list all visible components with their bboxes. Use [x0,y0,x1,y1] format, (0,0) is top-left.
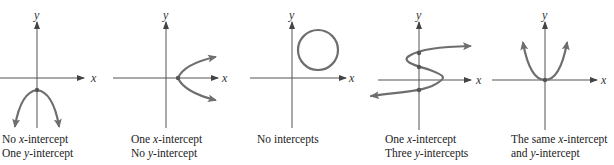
x-intercept-point [176,76,180,80]
circle-curve [298,30,338,70]
s-curve-left-arrow [372,95,380,96]
caption-line-2: Three y-intercepts [385,147,468,161]
caption-line-1: No intercepts [257,133,319,147]
origin-intercept-point [543,78,547,82]
caption-line-1: One x-intercept [131,133,202,147]
panel-2-graph: y x [113,8,228,128]
rightward-parabola-lower [178,78,215,100]
caption-line-2: One y-intercept [2,147,73,161]
x-axis-label: x [221,71,228,85]
panel-3-graph: y x [250,8,355,128]
panel-1-caption: No x-intercept One y-intercept [2,133,73,160]
x-axis-label: x [475,73,482,87]
x-axis-label: x [600,73,607,87]
y-intercept-point-1 [417,51,421,55]
caption-line-1: One x-intercept [385,133,468,147]
panel-2-caption: One x-intercept No y-intercept [131,133,202,160]
panel-4-caption: One x-intercept Three y-intercepts [385,133,468,160]
y-intercept-point-3 [417,88,421,92]
x-axis-label: x [90,71,97,85]
caption-line-2: and y-intercept [511,147,607,161]
upward-parabola-left [523,43,545,80]
y-axis-label: y [162,8,169,22]
y-intercept-point-2 [417,65,421,69]
panel-5-caption: The same x-intercept and y-intercept [511,133,607,160]
panel-5-graph: y x [492,8,607,130]
y-axis-label: y [415,8,422,22]
downward-parabola-curve-right [37,90,59,126]
rightward-parabola-upper [178,57,215,78]
downward-parabola-curve [15,90,37,126]
y-axis-label: y [541,8,548,22]
y-axis-label: y [288,8,295,22]
panel-4-graph: y x [371,8,482,130]
panel-1-graph: y x [0,8,97,128]
y-intercept-point [35,88,39,92]
caption-line-1: The same x-intercept [511,133,607,147]
caption-line-2: No y-intercept [131,147,202,161]
upward-parabola-right [545,43,567,80]
caption-line-1: No x-intercept [2,133,73,147]
panel-3-caption: No intercepts [257,133,319,147]
y-axis-label: y [33,8,40,22]
x-axis-label: x [348,71,355,85]
